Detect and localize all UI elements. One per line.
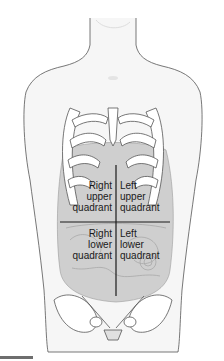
label-left-lower-quadrant: Left lower quadrant [120,228,170,261]
label-right-lower-quadrant: Right lower quadrant [64,228,112,261]
torso-illustration [0,0,224,361]
footer-bar [0,356,33,359]
abdominal-quadrants-diagram: Right upper quadrant Left upper quadrant… [0,0,224,361]
label-left-upper-quadrant: Left upper quadrant [120,180,170,213]
label-right-upper-quadrant: Right upper quadrant [64,180,112,213]
